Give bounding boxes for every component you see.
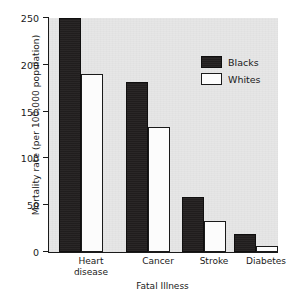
legend-swatch-whites	[201, 73, 222, 85]
bar-whites-heart-disease	[81, 74, 103, 252]
y-tick-label-0: 0	[33, 247, 39, 258]
bar-blacks-cancer	[126, 82, 148, 252]
x-axis-title: Fatal Illness	[48, 281, 277, 291]
y-tick-label-150: 150	[21, 106, 39, 117]
legend-swatch-blacks	[201, 56, 222, 68]
y-tick-0: 0	[43, 251, 49, 252]
bar-blacks-diabetes	[234, 234, 256, 252]
y-tick-label-200: 200	[21, 59, 39, 70]
bar-blacks-heart-disease	[59, 18, 81, 252]
bar-whites-stroke	[204, 221, 226, 252]
legend-label-blacks: Blacks	[228, 57, 259, 68]
legend: Blacks Whites	[201, 56, 261, 90]
bar-chart-figure: Mortality rate (per 100,000 population) …	[0, 0, 288, 296]
bar-whites-diabetes	[256, 246, 278, 252]
y-tick-label-250: 250	[21, 13, 39, 24]
plot-area: 0 50 100 150 200 250 Blacks Whites	[48, 18, 278, 253]
y-tick-100: 100	[43, 157, 49, 158]
legend-item-whites: Whites	[201, 73, 261, 85]
y-tick-150: 150	[43, 111, 49, 112]
x-tick-label-diabetes: Diabetes	[224, 256, 288, 267]
legend-label-whites: Whites	[228, 74, 261, 85]
y-tick-200: 200	[43, 64, 49, 65]
bar-blacks-stroke	[182, 197, 204, 252]
y-tick-250: 250	[43, 17, 49, 18]
legend-item-blacks: Blacks	[201, 56, 261, 68]
y-tick-label-100: 100	[21, 153, 39, 164]
y-tick-50: 50	[43, 204, 49, 205]
bar-whites-cancer	[148, 127, 170, 252]
y-tick-label-50: 50	[27, 200, 39, 211]
